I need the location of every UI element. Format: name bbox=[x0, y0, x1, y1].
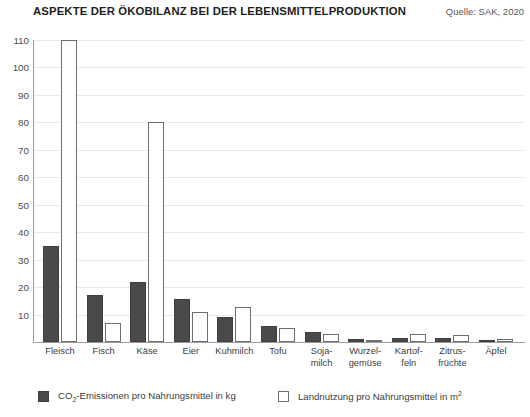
bar-co2 bbox=[43, 246, 59, 342]
bar-land bbox=[148, 122, 164, 342]
bar-co2 bbox=[305, 332, 321, 342]
y-tick-label: 70 bbox=[3, 144, 29, 155]
legend-label-land: Landnutzung pro Nahrungsmittel in m2 bbox=[298, 390, 462, 402]
bar-land bbox=[410, 334, 426, 342]
bar-group bbox=[261, 40, 295, 342]
bar-co2 bbox=[87, 295, 103, 342]
bar-co2 bbox=[261, 326, 277, 342]
plot-area bbox=[33, 40, 525, 342]
bar-co2 bbox=[217, 317, 233, 342]
bar-group bbox=[130, 40, 164, 342]
bar-land bbox=[323, 334, 339, 342]
source-note: Quelle: SAK, 2020 bbox=[446, 6, 524, 17]
bar-land bbox=[192, 312, 208, 342]
legend-label-co2: CO2-Emissionen pro Nahrungsmittel in kg bbox=[58, 390, 236, 403]
bar-group bbox=[479, 40, 513, 342]
bar-co2 bbox=[174, 299, 190, 342]
bar-group bbox=[305, 40, 339, 342]
y-tick-label: 10 bbox=[3, 309, 29, 320]
chart-header: ASPEKTE DER ÖKOBILANZ BEI DER LEBENSMITT… bbox=[0, 0, 530, 26]
bar-land bbox=[235, 307, 251, 342]
bar-land bbox=[105, 323, 121, 342]
chart-legend: CO2-Emissionen pro Nahrungsmittel in kg … bbox=[0, 390, 530, 412]
bar-group bbox=[43, 40, 77, 342]
page-title: ASPEKTE DER ÖKOBILANZ BEI DER LEBENSMITT… bbox=[33, 5, 406, 17]
y-axis-line bbox=[33, 40, 34, 343]
bar-group bbox=[348, 40, 382, 342]
bar-group bbox=[174, 40, 208, 342]
y-axis-labels: 102030405060708090100110 bbox=[0, 0, 29, 417]
legend-swatch-co2-icon bbox=[38, 391, 49, 402]
legend-item-land: Landnutzung pro Nahrungsmittel in m2 bbox=[278, 390, 462, 402]
x-axis-line bbox=[33, 342, 525, 343]
x-tick-label: Äpfel bbox=[467, 346, 525, 358]
y-tick-label: 100 bbox=[3, 62, 29, 73]
bar-group bbox=[217, 40, 251, 342]
bar-land bbox=[61, 40, 77, 342]
bar-group bbox=[435, 40, 469, 342]
bar-group bbox=[392, 40, 426, 342]
y-tick-label: 110 bbox=[3, 35, 29, 46]
bar-co2 bbox=[130, 282, 146, 342]
y-tick-label: 50 bbox=[3, 199, 29, 210]
legend-item-co2: CO2-Emissionen pro Nahrungsmittel in kg bbox=[38, 390, 236, 403]
bar-land bbox=[279, 328, 295, 342]
y-tick-label: 20 bbox=[3, 282, 29, 293]
y-tick-label: 60 bbox=[3, 172, 29, 183]
y-tick-label: 80 bbox=[3, 117, 29, 128]
bar-group bbox=[87, 40, 121, 342]
legend-swatch-land-icon bbox=[278, 391, 289, 402]
bar-land bbox=[453, 335, 469, 342]
y-tick-label: 40 bbox=[3, 227, 29, 238]
y-tick-label: 90 bbox=[3, 89, 29, 100]
y-tick-label: 30 bbox=[3, 254, 29, 265]
